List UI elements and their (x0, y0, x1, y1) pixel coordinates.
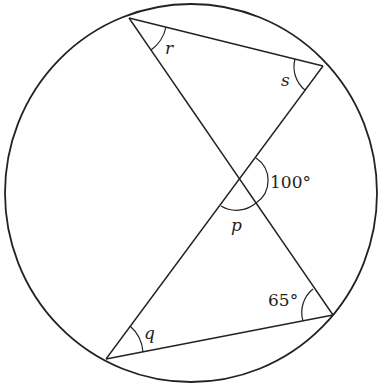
arc-r (151, 27, 166, 50)
label-r: r (165, 38, 174, 58)
label-p: p (231, 215, 242, 235)
label-s: s (281, 70, 290, 90)
label-q: q (144, 323, 155, 343)
chord-top (129, 18, 323, 66)
arc-65 (302, 289, 313, 321)
circle (5, 4, 377, 382)
chord-top-left-to-bottom-right (129, 18, 333, 315)
arc-q (130, 326, 143, 352)
chord-top-right-to-bottom-left (106, 66, 323, 359)
label-65: 65° (268, 290, 298, 310)
chord-bottom (106, 315, 333, 359)
label-100: 100° (270, 172, 311, 192)
arc-100 (256, 158, 268, 203)
circle-diagram: r s 100° p 65° q (0, 0, 383, 388)
arc-p (221, 203, 256, 210)
arc-s (294, 59, 305, 90)
